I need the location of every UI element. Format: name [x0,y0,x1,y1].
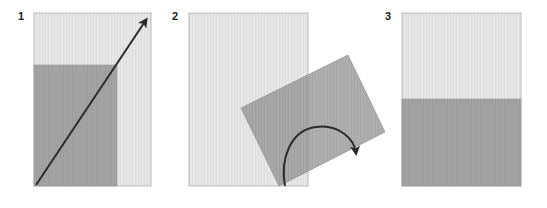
step-label-1: 1 [18,10,24,22]
step-3: 3 [385,10,521,186]
step-label-2: 2 [172,10,178,22]
step-2: 2 [172,10,385,186]
diagram-canvas: 1 2 3 [0,0,547,208]
step-1: 1 [18,10,151,186]
step-label-3: 3 [385,10,391,22]
